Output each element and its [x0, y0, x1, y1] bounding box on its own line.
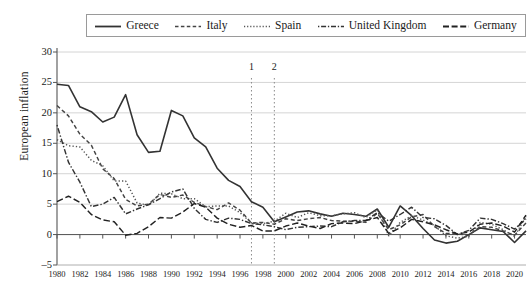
x-tick-label: 2018	[483, 270, 500, 279]
annotation-label-2: 2	[272, 62, 277, 72]
series-line-spain	[57, 140, 526, 239]
x-tick-label: 1984	[94, 270, 111, 279]
x-tick-label: 2010	[392, 270, 409, 279]
x-tick-label: 2014	[437, 270, 454, 279]
x-tick-label: 2008	[369, 270, 386, 279]
x-tick-label: 1988	[140, 270, 157, 279]
x-axis-ticks: 1980198219841986198819901992199419961998…	[0, 270, 532, 286]
x-tick-label: 2000	[277, 270, 294, 279]
x-tick-label: 1990	[163, 270, 180, 279]
x-tick-label: 1996	[232, 270, 249, 279]
x-tick-label: 1994	[209, 270, 226, 279]
x-tick-label: 2002	[300, 270, 317, 279]
series-line-united-kingdom	[57, 125, 526, 235]
x-tick-label: 1986	[117, 270, 134, 279]
annotation-label-1: 1	[249, 62, 254, 72]
chart-container: Greece Italy Spain United Kingdom German…	[0, 0, 532, 298]
x-tick-label: 1992	[186, 270, 203, 279]
x-tick-label: 2004	[323, 270, 340, 279]
plot-area	[0, 0, 532, 298]
x-tick-label: 1982	[71, 270, 88, 279]
x-tick-label: 2016	[460, 270, 477, 279]
x-tick-label: 1980	[49, 270, 66, 279]
x-tick-label: 1998	[254, 270, 271, 279]
x-tick-label: 2006	[346, 270, 363, 279]
x-tick-label: 2020	[506, 270, 523, 279]
x-tick-label: 2012	[415, 270, 432, 279]
